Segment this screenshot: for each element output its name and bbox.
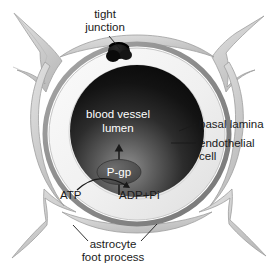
endothelial-label-line2: cell (199, 150, 216, 162)
basal-lamina-label: basal lamina (199, 118, 264, 130)
astrocyte-foot-process (199, 189, 266, 256)
endothelial-label-line1: endothelial (199, 137, 255, 149)
p-gp-label: P-gp (107, 166, 131, 178)
tight-junction-label-line2: junction (84, 21, 125, 33)
p-gp-pump: P-gp (97, 160, 141, 185)
astrocyte-foot-process (212, 16, 264, 92)
lumen-label-line2: lumen (102, 122, 133, 134)
astrocyte-label-line2: foot process (82, 251, 145, 263)
astrocyte-label-line1: astrocyte (90, 238, 137, 250)
atp-label: ATP (60, 189, 82, 201)
diagram-canvas: P-gp ATP ADP+Pi blood vessel lumen tight… (0, 0, 274, 272)
lumen-label-line1: blood vessel (86, 108, 150, 120)
tight-junction-label-line1: tight (94, 8, 117, 20)
blood-brain-barrier-figure: P-gp ATP ADP+Pi blood vessel lumen tight… (0, 0, 274, 272)
adp-pi-label: ADP+Pi (119, 189, 160, 201)
astrocyte-leader-left (73, 225, 88, 241)
